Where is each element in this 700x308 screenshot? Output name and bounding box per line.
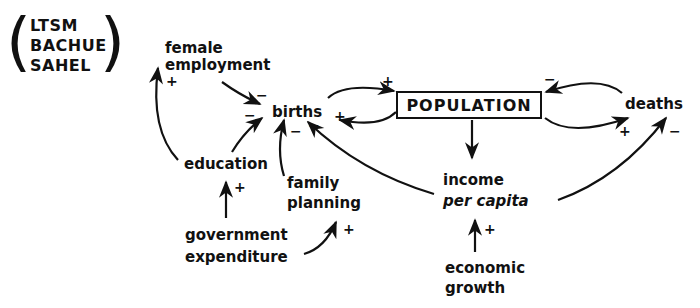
sign-family-planning-births: − [290, 124, 302, 138]
model-bachue: BACHUE [30, 36, 107, 56]
sign-deaths-population: − [544, 72, 556, 86]
sign-population-deaths: + [619, 124, 631, 138]
model-sahel: SAHEL [30, 56, 107, 76]
arrow-deaths-to-population [546, 83, 622, 93]
sign-gov-education: + [234, 180, 246, 194]
sign-female-employment-births: − [256, 88, 268, 102]
sign-population-births: + [334, 109, 346, 123]
arrow-female-employment-to-births [222, 82, 260, 104]
arrow-population-to-deaths [545, 118, 628, 128]
model-list: LTSM BACHUE SAHEL [30, 16, 107, 76]
causal-loop-diagram: ( LTSM BACHUE SAHEL ) female employment … [0, 0, 700, 308]
right-parenthesis: ) [100, 10, 125, 74]
sign-income-deaths: − [669, 124, 681, 138]
node-deaths: deaths [625, 96, 683, 113]
node-education: education [184, 156, 268, 173]
arrow-family-planning-to-births [280, 120, 284, 176]
arrow-income-to-deaths [558, 118, 666, 200]
arrow-births-to-population [328, 88, 394, 98]
sign-income-births: − [308, 118, 320, 132]
sign-education-births: − [244, 108, 256, 122]
arrow-population-to-births [340, 112, 396, 123]
arrow-gov-to-family-planning [304, 222, 336, 254]
node-population: POPULATION [396, 91, 542, 119]
sign-economic-growth-income: + [484, 222, 496, 236]
sign-gov-family-planning: + [343, 222, 355, 236]
left-parenthesis: ( [6, 10, 31, 74]
node-income-per-capita: income per capita [443, 170, 529, 212]
node-family-planning: family planning [287, 173, 361, 213]
node-economic-growth: economic growth [445, 258, 525, 298]
node-female-employment: female employment [165, 40, 270, 74]
arrow-education-to-births [232, 118, 262, 152]
sign-education-female-employment: + [166, 74, 178, 88]
model-ltsm: LTSM [30, 16, 107, 36]
node-government-expenditure: government expenditure [185, 224, 288, 268]
sign-births-population: + [382, 74, 394, 88]
